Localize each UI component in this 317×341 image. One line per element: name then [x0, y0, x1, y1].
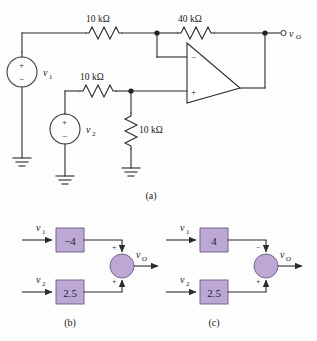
- diagram-b-input-v1-label: v: [36, 222, 41, 233]
- diagram-c-input-v2-subscript: 2: [186, 280, 190, 288]
- diagram-c-output-subscript: O: [286, 255, 291, 263]
- source-v2-label: v: [86, 124, 91, 135]
- resistor-shunt-label: 10 kΩ: [139, 125, 163, 135]
- resistor-input-top-label: 10 kΩ: [86, 14, 110, 24]
- source-v2-minus: −: [62, 131, 67, 141]
- resistor-feedback-label: 40 kΩ: [178, 14, 202, 24]
- diagram-b-sign-bottom: +: [112, 277, 117, 286]
- diagram-c-input-v1-label: v: [180, 222, 185, 233]
- resistor-input-mid-label: 10 kΩ: [80, 72, 104, 82]
- circuit-figure: 10 kΩ 40 kΩ v O − +: [0, 0, 317, 341]
- resistor-feedback: [178, 27, 214, 39]
- diagram-b-input-v2-label: v: [36, 274, 41, 285]
- diagram-c-summing-junction: [254, 254, 278, 278]
- resistor-input-top: [86, 27, 122, 39]
- source-v1-plus: +: [19, 60, 24, 70]
- diagram-c-gain-2-value: 2.5: [207, 287, 221, 299]
- diagram-b-output-label: v: [136, 249, 141, 260]
- opamp-noninverting-sign: +: [191, 87, 196, 97]
- ground-shunt: [122, 168, 140, 176]
- figure-page: 10 kΩ 40 kΩ v O − +: [0, 0, 317, 341]
- resistor-input-mid: [80, 85, 116, 97]
- source-v1-minus: −: [19, 74, 24, 84]
- caption-c: (c): [208, 317, 219, 329]
- diagram-c-output-label: v: [280, 249, 285, 260]
- diagram-b-gain-2-value: 2.5: [63, 287, 77, 299]
- diagram-b-output-subscript: O: [142, 255, 147, 263]
- block-diagram-c: v 1 4 − v 2 2.5 + v: [166, 222, 302, 329]
- source-v2: + − v 2: [50, 114, 96, 144]
- diagram-b-sign-top: +: [112, 243, 117, 252]
- diagram-c-gain-1-value: 4: [211, 235, 217, 247]
- ground-v1: [13, 158, 31, 166]
- diagram-c-input-v2-label: v: [180, 274, 185, 285]
- output-label: v: [289, 28, 294, 39]
- terminal-output-open: [281, 30, 286, 35]
- opamp-inverting-sign: −: [191, 52, 196, 62]
- caption-a: (a): [145, 190, 156, 202]
- diagram-c-input-v1-subscript: 1: [186, 228, 190, 236]
- output-label-subscript: O: [296, 33, 301, 41]
- caption-b: (b): [64, 317, 76, 329]
- source-v1-label-subscript: 1: [49, 73, 53, 81]
- ground-v2: [56, 176, 74, 184]
- diagram-b-summing-junction: [110, 254, 134, 278]
- source-v1-label: v: [43, 67, 48, 78]
- diagram-b-input-v1-subscript: 1: [42, 228, 46, 236]
- circuit-schematic-a: 10 kΩ 40 kΩ v O − +: [7, 14, 301, 202]
- block-diagram-b: v 1 −4 + v 2 2.5 + v: [22, 222, 158, 329]
- diagram-b-input-v2-subscript: 2: [42, 280, 46, 288]
- resistor-shunt: [125, 113, 137, 149]
- diagram-b-gain-1-value: −4: [64, 235, 76, 247]
- source-v1: + − v 1: [7, 57, 53, 87]
- source-v2-plus: +: [62, 117, 67, 127]
- diagram-c-sign-top: −: [256, 243, 261, 252]
- diagram-c-sign-bottom: +: [256, 277, 261, 286]
- source-v2-label-subscript: 2: [92, 130, 96, 138]
